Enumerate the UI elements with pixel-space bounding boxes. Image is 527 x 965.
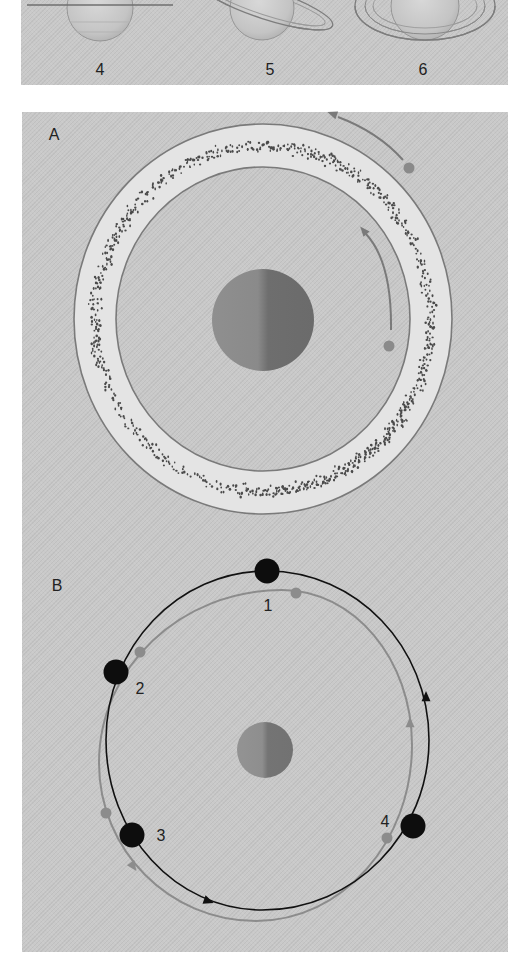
planet-6-illustration [355,0,495,40]
planet-5-label: 5 [266,62,275,78]
figure-artwork [0,0,527,965]
outer-moon [404,163,415,174]
gray-moon-position-2 [135,647,146,658]
gray-moon-position-3 [101,808,112,819]
black-moon-position-4 [401,814,426,839]
planet-6-label: 6 [419,62,428,78]
black-moon-position-3 [120,823,145,848]
position-1-label: 1 [264,598,273,614]
position-4-label: 4 [381,814,390,830]
black-moon-position-2 [104,660,129,685]
outer-orbit-arrow-head [326,108,338,119]
gray-moon-position-4 [382,833,393,844]
panel-b-label: B [52,578,63,594]
central-planet [237,722,293,778]
black-moon-position-1 [255,559,280,584]
planet-5-illustration [195,0,337,40]
inner-orbit-arrow [366,234,391,330]
gray-moon-position-1 [291,588,302,599]
top-planets-group [27,0,495,41]
panel-a-label: A [49,127,60,143]
planet-4-illustration [27,0,173,41]
planet-body [67,0,133,41]
planet-4-label: 4 [96,62,105,78]
panel-a-ring-diagram [74,108,452,514]
inner-moon [384,341,395,352]
position-3-label: 3 [157,828,166,844]
gray-arrow-right [406,717,415,727]
central-planet [212,269,314,371]
position-2-label: 2 [136,681,145,697]
